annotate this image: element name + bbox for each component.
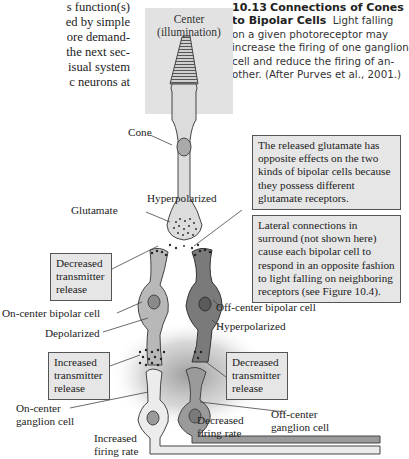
note-line: respond in an opposite fashion bbox=[258, 259, 395, 272]
note-line: Lateral connections in bbox=[258, 219, 395, 232]
note-line: opposite effects on the two bbox=[258, 152, 395, 165]
label-on-center-ganglion-2: ganglion cell bbox=[16, 415, 74, 428]
note-decreased-release-cone: Decreased transmitter release bbox=[50, 253, 112, 301]
cone-body bbox=[167, 84, 202, 240]
note-decreased-release-bipolar: Decreased transmitter release bbox=[226, 352, 288, 400]
note-line: transmitter bbox=[56, 270, 106, 283]
note-line: Decreased bbox=[232, 356, 282, 369]
note-released-glutamate: The released glutamate has opposite effe… bbox=[252, 135, 401, 210]
label-decreased-firing-2: firing rate bbox=[197, 427, 241, 440]
note-line: kinds of bipolar cells because bbox=[258, 165, 395, 178]
note-line: transmitter bbox=[232, 369, 282, 382]
note-line: cause each bipolar cell to bbox=[258, 245, 395, 258]
on-ganglion-nucleus bbox=[147, 411, 159, 425]
note-line: release bbox=[54, 382, 104, 395]
on-bipolar-nucleus bbox=[148, 295, 160, 309]
label-off-center-ganglion-1: Off-center bbox=[271, 408, 317, 421]
note-line: transmitter bbox=[54, 369, 104, 382]
label-on-center-ganglion-1: On-center bbox=[16, 402, 61, 415]
note-line: release bbox=[232, 382, 282, 395]
note-line: Decreased bbox=[56, 257, 106, 270]
label-on-center-bipolar: On-center bipolar cell bbox=[2, 307, 100, 320]
label-cone: Cone bbox=[128, 126, 152, 139]
note-line: to light falling on neighboring bbox=[258, 272, 395, 285]
cone-nucleus bbox=[177, 138, 191, 156]
label-off-center-ganglion-2: ganglion cell bbox=[271, 421, 329, 434]
note-line: Increased bbox=[54, 356, 104, 369]
note-line: they possess different bbox=[258, 179, 395, 192]
off-bipolar-nucleus bbox=[199, 297, 211, 311]
note-line: receptors (see Figure 10.4). bbox=[258, 285, 395, 298]
note-line: surround (not shown here) bbox=[258, 232, 395, 245]
note-line: The released glutamate has bbox=[258, 139, 395, 152]
note-line: glutamate receptors. bbox=[258, 192, 395, 205]
label-increased-firing-2: firing rate bbox=[94, 445, 138, 458]
label-depolarized: Depolarized bbox=[45, 327, 100, 340]
note-lateral-connections: Lateral connections in surround (not sho… bbox=[252, 215, 401, 303]
note-line: release bbox=[56, 283, 106, 296]
label-glutamate: Glutamate bbox=[71, 204, 118, 217]
note-increased-release: Increased transmitter release bbox=[48, 352, 110, 400]
label-hyperpolarized-bipolar: Hyperpolarized bbox=[216, 320, 286, 333]
label-decreased-firing-1: Decreased bbox=[197, 414, 244, 427]
label-increased-firing-1: Increased bbox=[94, 432, 137, 445]
cone-outer-segment bbox=[170, 36, 198, 84]
label-hyperpolarized-cone: Hyperpolarized bbox=[147, 192, 217, 205]
